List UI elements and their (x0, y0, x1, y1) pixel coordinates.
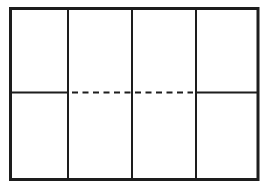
outer-rectangle (11, 9, 259, 180)
rectangle-fourths-diagram (0, 0, 263, 189)
diagram-canvas (0, 0, 263, 189)
